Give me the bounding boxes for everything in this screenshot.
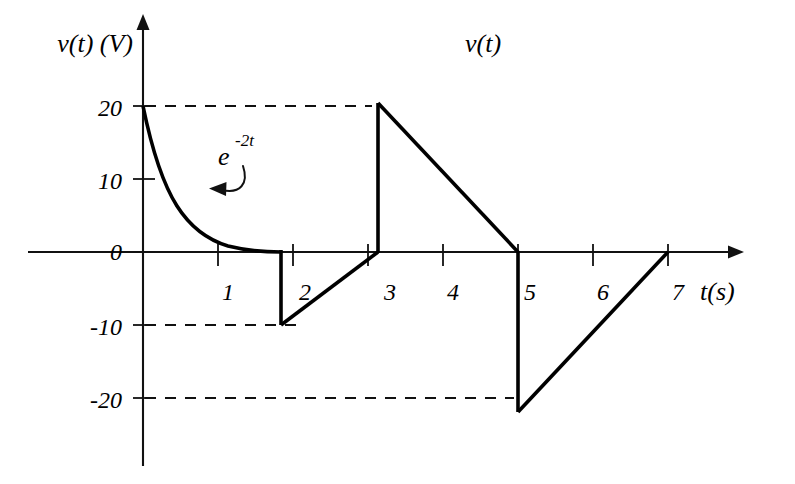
segment-ramp-up-final	[518, 252, 668, 412]
y-tick-label-0: 0	[110, 239, 122, 265]
exp-annotation-base: e	[218, 142, 230, 171]
x-axis-arrowhead	[728, 246, 744, 259]
x-tick-label-6: 6	[597, 279, 609, 305]
labels-group: v(t) (V) v(t) t(s) 20 10 0 -10 -20 1 2 3…	[57, 29, 734, 413]
x-tick-label-3: 3	[383, 279, 396, 305]
x-tick-label-5: 5	[524, 279, 536, 305]
segment-ramp-down-to-zero	[378, 103, 518, 252]
y-tick-label-minus-10: -10	[90, 314, 122, 340]
y-tick-label-minus-20: -20	[90, 387, 122, 413]
x-tick-label-7: 7	[672, 279, 685, 305]
segment-exponential-decay	[143, 106, 281, 252]
x-tick-label-1: 1	[222, 279, 234, 305]
exp-annotation-arrowhead	[209, 182, 227, 196]
x-axis-label: t(s)	[700, 277, 735, 306]
x-tick-label-2: 2	[299, 279, 311, 305]
segment-ramp-up-to-zero	[281, 252, 378, 325]
y-tick-label-10: 10	[98, 168, 122, 194]
y-axis-arrowhead	[137, 14, 150, 30]
y-axis-label: v(t) (V)	[57, 29, 133, 58]
x-tick-marks	[218, 244, 668, 266]
exp-annotation-superscript: -2t	[235, 131, 255, 150]
x-tick-label-4: 4	[447, 279, 459, 305]
chart-title: v(t)	[465, 29, 501, 58]
y-tick-label-20: 20	[98, 95, 122, 121]
waveform-chart: v(t) (V) v(t) t(s) 20 10 0 -10 -20 1 2 3…	[0, 0, 795, 484]
figure-container: v(t) (V) v(t) t(s) 20 10 0 -10 -20 1 2 3…	[0, 0, 795, 484]
